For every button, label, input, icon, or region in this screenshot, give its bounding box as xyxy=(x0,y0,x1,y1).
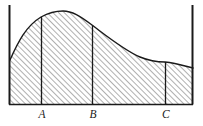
divider-label-a: A xyxy=(37,108,46,120)
figure-container: A B C xyxy=(0,0,203,126)
area-under-curve-figure: A B C xyxy=(0,0,203,126)
divider-label-c: C xyxy=(162,108,170,120)
divider-label-b: B xyxy=(89,108,96,120)
